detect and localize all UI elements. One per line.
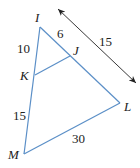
vertex-label-L: L	[123, 99, 131, 114]
length-label-KM: 15	[13, 108, 26, 123]
side-ML	[24, 103, 120, 154]
vertex-label-I: I	[34, 10, 40, 25]
vertex-label-J: J	[73, 43, 80, 58]
length-label-arrow: 15	[99, 34, 112, 49]
double-arrow-icon	[58, 9, 136, 83]
length-label-IK: 10	[17, 41, 30, 56]
segment-KJ	[35, 56, 70, 75]
vertex-label-M: M	[7, 147, 20, 162]
length-label-IJ: 6	[57, 26, 64, 41]
geometry-diagram: I J K L M 10 6 15 30 15	[0, 0, 140, 168]
length-label-ML: 30	[72, 131, 85, 146]
vertex-label-K: K	[19, 68, 30, 83]
